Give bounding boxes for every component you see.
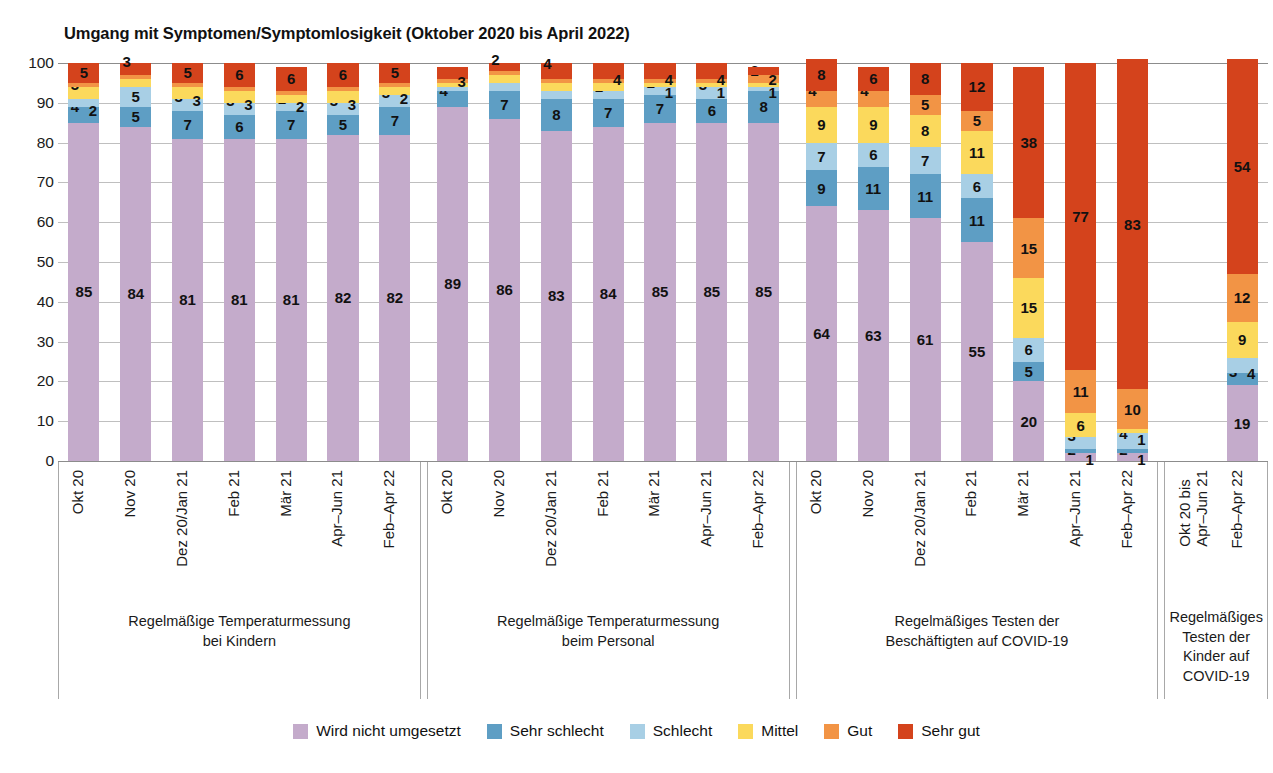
- bar-segment-gut[interactable]: 11: [1065, 370, 1096, 414]
- bar-segment-wird-nicht-umgesetzt[interactable]: 20: [1013, 381, 1044, 461]
- bar-segment-sehr-gut[interactable]: 2: [748, 67, 779, 75]
- bar-segment-gut[interactable]: 5: [910, 95, 941, 115]
- stacked-bar[interactable]: 84553: [120, 63, 151, 461]
- bar-segment-sehr-gut[interactable]: 8: [910, 63, 941, 95]
- bar-segment-gut[interactable]: 12: [1227, 274, 1258, 322]
- bar-segment-mittel[interactable]: 2: [379, 87, 410, 95]
- bar-segment-schlecht[interactable]: 2: [68, 99, 99, 107]
- x-axis-label[interactable]: Nov 20: [859, 470, 890, 518]
- x-axis-label[interactable]: Okt 20: [438, 470, 469, 514]
- bar-segment-wird-nicht-umgesetzt[interactable]: 85: [748, 123, 779, 461]
- bar-segment-sehr-schlecht[interactable]: 8: [541, 99, 572, 131]
- bar-segment-wird-nicht-umgesetzt[interactable]: 86: [489, 119, 520, 461]
- x-axis-label[interactable]: Dez 20/Jan 21: [542, 470, 573, 567]
- stacked-bar[interactable]: 8672: [489, 63, 520, 461]
- bar-segment-mittel[interactable]: 3: [172, 87, 203, 99]
- bar-segment-mittel[interactable]: 3: [327, 91, 358, 103]
- x-axis-label[interactable]: Okt 20: [69, 470, 100, 514]
- bar-segment-mittel[interactable]: [541, 83, 572, 91]
- stacked-bar[interactable]: 816336: [224, 63, 255, 461]
- bar-segment-sehr-schlecht[interactable]: 5: [120, 107, 151, 127]
- bar-segment-wird-nicht-umgesetzt[interactable]: 84: [120, 127, 151, 461]
- bar-segment-mittel[interactable]: 9: [858, 107, 889, 143]
- stacked-bar[interactable]: 8384: [541, 63, 572, 461]
- bar-segment-sehr-gut[interactable]: 5: [172, 63, 203, 83]
- x-axis-label[interactable]: Mär 21: [1014, 470, 1045, 517]
- x-axis-label[interactable]: Okt 20 bis Apr–Jun 21: [1176, 470, 1207, 547]
- bar-segment-schlecht[interactable]: 7: [910, 147, 941, 175]
- bar-segment-wird-nicht-umgesetzt[interactable]: 63: [858, 210, 889, 461]
- bar-segment-sehr-gut[interactable]: 38: [1013, 67, 1044, 218]
- bar-segment-sehr-schlecht[interactable]: 11: [858, 167, 889, 211]
- stacked-bar[interactable]: 8172216: [276, 67, 307, 461]
- stacked-bar[interactable]: 817335: [172, 63, 203, 461]
- bar-segment-sehr-schlecht[interactable]: 1: [1117, 449, 1148, 453]
- bar-segment-sehr-gut[interactable]: 5: [379, 63, 410, 83]
- legend-item[interactable]: Schlecht: [630, 722, 712, 740]
- bar-segment-mittel[interactable]: 9: [1227, 322, 1258, 358]
- x-axis-label[interactable]: Nov 20: [121, 470, 152, 518]
- bar-segment-mittel[interactable]: 2: [276, 95, 307, 103]
- bar-segment-mittel[interactable]: [489, 75, 520, 83]
- bar-segment-mittel[interactable]: [120, 79, 151, 87]
- bar-segment-gut[interactable]: 15: [1013, 218, 1044, 278]
- bar-segment-sehr-schlecht[interactable]: 6: [696, 99, 727, 123]
- stacked-bar[interactable]: 84724: [593, 63, 624, 461]
- bar-segment-sehr-gut[interactable]: 6: [224, 63, 255, 87]
- bar-segment-mittel[interactable]: 15: [1013, 278, 1044, 338]
- x-axis-label[interactable]: Feb 21: [962, 470, 993, 517]
- x-axis-label[interactable]: Feb–Apr 22: [749, 470, 780, 548]
- bar-segment-gut[interactable]: 4: [858, 91, 889, 107]
- bar-segment-mittel[interactable]: 3: [68, 87, 99, 99]
- bar-segment-gut[interactable]: [172, 83, 203, 87]
- bar-segment-gut[interactable]: [489, 71, 520, 75]
- bar-segment-wird-nicht-umgesetzt[interactable]: 82: [327, 135, 358, 461]
- bar-segment-schlecht[interactable]: 5: [120, 87, 151, 107]
- bar-segment-sehr-schlecht[interactable]: 1: [1065, 449, 1096, 453]
- bar-segment-wird-nicht-umgesetzt[interactable]: 61: [910, 218, 941, 461]
- bar-segment-sehr-gut[interactable]: 83: [1117, 59, 1148, 389]
- bar-segment-sehr-gut[interactable]: 77: [1065, 63, 1096, 369]
- bar-segment-wird-nicht-umgesetzt[interactable]: 89: [437, 107, 468, 461]
- bar-segment-sehr-schlecht[interactable]: 5: [327, 115, 358, 135]
- x-axis-label[interactable]: Okt 20: [807, 470, 838, 514]
- bar-segment-sehr-schlecht[interactable]: 4: [437, 91, 468, 107]
- bar-segment-sehr-gut[interactable]: 5: [68, 63, 99, 83]
- stacked-bar[interactable]: 5511611512: [961, 63, 992, 461]
- bar-segment-sehr-gut[interactable]: 8: [806, 59, 837, 91]
- bar-segment-sehr-gut[interactable]: 2: [489, 63, 520, 71]
- bar-segment-sehr-schlecht[interactable]: 11: [910, 174, 941, 218]
- bar-segment-schlecht[interactable]: 3: [1065, 437, 1096, 449]
- bar-segment-sehr-gut[interactable]: 6: [276, 67, 307, 91]
- stacked-bar[interactable]: 8572114: [644, 63, 675, 461]
- bar-segment-wird-nicht-umgesetzt[interactable]: 85: [68, 123, 99, 461]
- stacked-bar[interactable]: 8943: [437, 67, 468, 461]
- bar-segment-mittel[interactable]: 8: [910, 115, 941, 147]
- stacked-bar[interactable]: 8563114: [696, 63, 727, 461]
- bar-segment-mittel[interactable]: 6: [1065, 413, 1096, 437]
- bar-segment-wird-nicht-umgesetzt[interactable]: 81: [276, 139, 307, 461]
- x-axis-label[interactable]: Feb 21: [225, 470, 256, 517]
- x-axis-label[interactable]: Feb–Apr 22: [1228, 470, 1259, 548]
- bar-segment-mittel[interactable]: 9: [806, 107, 837, 143]
- bar-segment-sehr-gut[interactable]: 6: [327, 63, 358, 87]
- stacked-bar[interactable]: 2056151538: [1013, 67, 1044, 461]
- bar-segment-sehr-schlecht[interactable]: 7: [593, 99, 624, 127]
- x-axis-label[interactable]: Feb 21: [594, 470, 625, 517]
- legend-item[interactable]: Wird nicht umgesetzt: [293, 722, 461, 740]
- bar-segment-gut[interactable]: 1: [327, 87, 358, 91]
- x-axis-label[interactable]: Dez 20/Jan 21: [911, 470, 942, 567]
- bar-segment-sehr-gut[interactable]: 4: [696, 63, 727, 79]
- bar-segment-sehr-gut[interactable]: 3: [120, 63, 151, 75]
- bar-segment-sehr-gut[interactable]: 4: [541, 63, 572, 79]
- bar-segment-sehr-gut[interactable]: 12: [961, 63, 992, 111]
- bar-segment-sehr-schlecht[interactable]: 6: [224, 115, 255, 139]
- x-axis-label[interactable]: Mär 21: [277, 470, 308, 517]
- bar-segment-gut[interactable]: 4: [806, 91, 837, 107]
- x-axis-label[interactable]: Apr–Jun 21: [1066, 470, 1097, 547]
- stacked-bar[interactable]: 63116946: [858, 67, 889, 461]
- stacked-bar[interactable]: 8273215: [379, 63, 410, 461]
- bar-segment-schlecht[interactable]: 7: [806, 143, 837, 171]
- bar-segment-wird-nicht-umgesetzt[interactable]: 81: [172, 139, 203, 461]
- bar-segment-mittel[interactable]: 3: [224, 91, 255, 103]
